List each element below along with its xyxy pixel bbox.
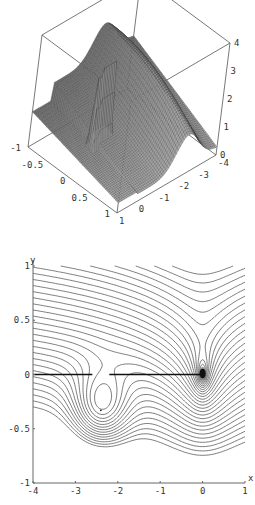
contour-line [115, 266, 245, 379]
x-tick-label: 1 [242, 486, 247, 496]
surface-patch [104, 127, 106, 141]
box-edge [42, 0, 141, 35]
singularity-marker [200, 369, 206, 379]
y-tick-label: 0.5 [14, 315, 30, 325]
surface-plot: -1-0.500.5110-1-2-3-401234 [0, 0, 255, 250]
surface-patch [94, 139, 96, 153]
box-edge [141, 0, 230, 43]
surface-patch [105, 126, 107, 141]
tick-label-x: 0 [60, 176, 65, 186]
contour-line [33, 346, 245, 421]
x-axis-label: x [248, 473, 254, 483]
tick-label-x: 1 [105, 209, 110, 219]
surface-patch [109, 124, 111, 139]
surface-patch [100, 129, 102, 143]
y-tick-label: -0.5 [8, 424, 30, 434]
x-tick-label: -2 [112, 486, 123, 496]
surface-patch [110, 123, 112, 138]
tick-label-y: -3 [198, 170, 209, 180]
axis-ticks: -4-3-2-10110.50-0.5-1 [8, 261, 247, 496]
x-tick-label: -3 [70, 486, 81, 496]
y-tick-label: 0 [25, 370, 30, 380]
contour-line [33, 401, 245, 451]
contour-line [90, 266, 245, 380]
y-tick-label: 1 [25, 261, 30, 271]
tick-label-z: 1 [224, 122, 229, 132]
tick-label-y: -2 [178, 181, 189, 191]
tick-label-y: 0 [139, 204, 144, 214]
x-tick-label: -1 [155, 486, 166, 496]
surface-patch [107, 125, 109, 140]
box-edge [28, 35, 42, 147]
tick-label-z: 0 [220, 150, 225, 160]
contour-line [33, 280, 245, 386]
y-axis-label: y [30, 255, 36, 265]
tick-label-y: 1 [119, 216, 124, 226]
tick-label-x: -1 [10, 143, 21, 153]
tick-label-z: 4 [234, 38, 239, 48]
contour-line [33, 340, 245, 418]
surface-patch [96, 138, 98, 152]
tick-label-z: 3 [231, 66, 236, 76]
tick-label-x: 0.5 [71, 193, 87, 203]
contour-lines [33, 266, 245, 455]
surface-patch [102, 128, 104, 142]
contour-line [136, 266, 245, 379]
tick-label-z: 2 [227, 94, 232, 104]
tick-label-x: -0.5 [22, 160, 44, 170]
y-tick-label: -1 [19, 478, 30, 488]
tick-label-y: -1 [159, 193, 170, 203]
contour-plot: yx -4-3-2-10110.50-0.5-1 [0, 250, 255, 505]
center-point [100, 409, 102, 411]
x-tick-label: 0 [200, 486, 205, 496]
